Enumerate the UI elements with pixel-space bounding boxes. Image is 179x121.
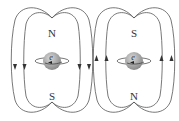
electron-label-right: e (131, 53, 135, 62)
diagram-canvas: N S e S N e (0, 0, 179, 121)
panel-right: S N e (93, 8, 175, 113)
electron-right: e (117, 52, 151, 70)
pole-label-bottom-right: N (130, 90, 138, 102)
pole-label-top-right: S (131, 27, 137, 39)
arrow-up-icon (160, 55, 164, 61)
panel-left: N S e (11, 8, 93, 113)
arrow-up-icon (105, 55, 109, 61)
arrow-down-icon (23, 64, 27, 70)
pole-label-bottom-left: S (49, 90, 55, 102)
arrow-down-icon (87, 64, 91, 70)
arrow-up-icon (95, 55, 99, 61)
arrow-up-icon (170, 55, 174, 61)
arrow-down-icon (78, 64, 82, 70)
arrow-down-icon (13, 64, 17, 70)
electron-left: e (35, 52, 69, 70)
electron-label-left: e (49, 53, 53, 62)
pole-label-top-left: N (48, 27, 56, 39)
